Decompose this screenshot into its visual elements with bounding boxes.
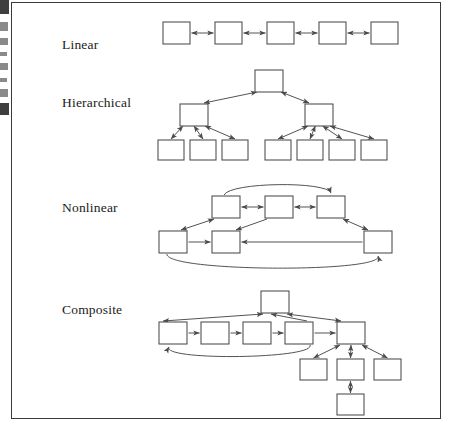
scan-mark	[0, 78, 7, 82]
scan-edge-artifacts	[0, 0, 10, 434]
scan-mark	[0, 89, 8, 97]
scan-mark	[0, 52, 7, 56]
figure-root: Linear Hierarchical Nonlinear Composite	[0, 0, 453, 434]
scan-mark	[0, 63, 8, 70]
row-label-composite: Composite	[62, 302, 122, 318]
scan-mark	[0, 0, 9, 14]
scan-mark	[0, 103, 9, 115]
row-label-hierarchical: Hierarchical	[62, 95, 131, 111]
row-label-nonlinear: Nonlinear	[62, 200, 118, 216]
scan-mark	[0, 22, 8, 31]
scan-mark	[0, 38, 8, 45]
row-label-linear: Linear	[62, 37, 98, 53]
